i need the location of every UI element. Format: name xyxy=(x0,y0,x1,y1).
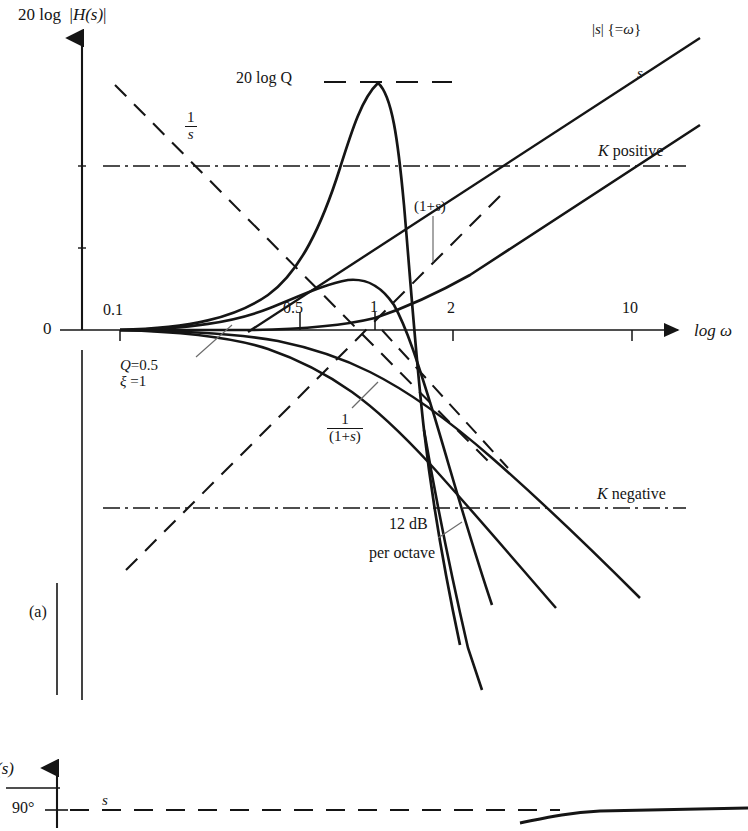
s-magnitude-line xyxy=(248,38,700,332)
annotation-k-positive: K positive xyxy=(598,143,663,160)
panel-b xyxy=(6,768,748,828)
plot-canvas xyxy=(0,0,748,831)
panel-b-tick-90: 90° xyxy=(12,800,34,817)
s-dashed-asymptote xyxy=(126,196,500,570)
annotation-twelve-db: 12 dB xyxy=(389,516,428,533)
annotation-q-and-xi: QQ=0.5=0.5 ξ =1 xyxy=(120,358,158,390)
panel-a-x-axis-title: log ω xyxy=(694,322,732,340)
curve-q-half-xi-one xyxy=(120,330,556,608)
xtick-label-1: 0.5 xyxy=(283,300,303,317)
second-order-dashed-asymptote xyxy=(382,330,508,468)
panel-a-y-axis xyxy=(78,38,86,330)
annotation-one-over-s: 1 s xyxy=(185,110,197,143)
xtick-label-4: 10 xyxy=(622,300,638,317)
annotation-k-negative: K negative xyxy=(597,486,666,503)
annotation-twenty-log-q: 20 log Q xyxy=(236,70,292,87)
one-over-s-denominator: s xyxy=(185,127,197,143)
panel-a-caption: (a) xyxy=(29,604,47,621)
annotation-s-asymptote: s xyxy=(637,66,643,82)
xtick-label-2: 1 xyxy=(370,299,378,316)
annotation-one-over-one-plus-s: 1 (1+s) xyxy=(327,412,363,445)
panel-b-curve-label-s: s xyxy=(102,793,108,809)
bode-plot-figure: 20 log |H(s)| log ω 0 0.1 0.5 1 2 10 20 … xyxy=(0,0,748,831)
panel-b-y-axis-title: (s) xyxy=(0,760,14,778)
xtick-label-3: 2 xyxy=(447,300,455,317)
panel-a-x-axis xyxy=(60,312,678,341)
one-over-s-numerator: 1 xyxy=(185,110,197,127)
origin-label: 0 xyxy=(43,320,52,338)
annotation-one-plus-s: (1+s) xyxy=(414,199,446,215)
one-over-one-plus-s-numerator: 1 xyxy=(327,412,363,429)
one-over-one-plus-s-denominator: (1+s) xyxy=(327,429,363,445)
annotation-s-magnitude: |s| {=ω} xyxy=(592,22,641,38)
panel-a-y-axis-title: 20 log |H(s)| xyxy=(18,6,107,24)
annotation-per-octave: per octave xyxy=(369,545,435,562)
one-over-s-asymptote xyxy=(115,85,489,462)
xtick-label-0: 0.1 xyxy=(103,302,123,319)
